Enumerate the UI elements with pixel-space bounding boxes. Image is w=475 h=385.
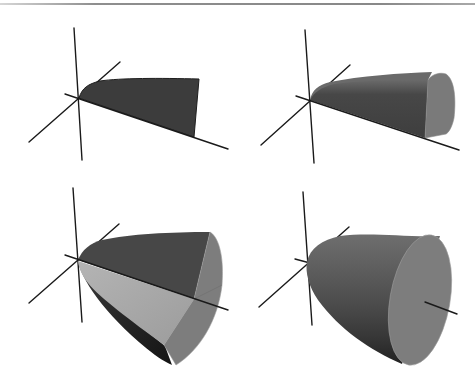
panel-4	[259, 192, 461, 370]
planar-region	[79, 78, 199, 137]
panel-3	[29, 188, 228, 365]
revolution-diagram	[0, 0, 475, 385]
panel-2	[261, 30, 459, 163]
end-cap	[425, 73, 455, 138]
panel-1	[29, 28, 228, 160]
planar-region	[310, 80, 428, 138]
